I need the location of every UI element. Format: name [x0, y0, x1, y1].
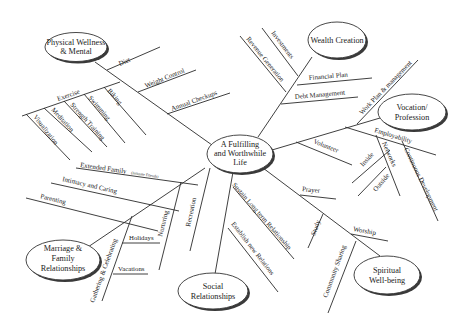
label-extended-family: Extended Family [80, 161, 128, 175]
mind-map-canvas: Diet Weight Control Annual Checkups Exer… [0, 0, 474, 331]
label-biking: Biking [106, 87, 124, 106]
label-community-sharing: Community Sharing [321, 243, 347, 298]
label-volunteer: Volunteer [313, 137, 341, 154]
marriage-branches [26, 168, 210, 301]
label-financial-plan: Financial Plan [308, 71, 348, 81]
label-prayer: Prayer [302, 185, 321, 194]
node-physical: Physical Wellness & Mental [45, 33, 109, 64]
center-line1: A Fulfilling [221, 140, 259, 149]
node-marriage-line2: Family [51, 254, 75, 263]
node-social: Social Relationships [178, 273, 250, 311]
node-spiritual: Spiritual Well-being [354, 256, 422, 296]
label-annual-checkups: Annual Checkups [170, 89, 218, 112]
node-social-line1: Social [203, 282, 224, 291]
label-nurturing: Nurturing [156, 209, 169, 237]
label-outside: Outside [371, 172, 390, 193]
node-marriage-line3: Relationships [41, 264, 86, 273]
node-marriage-line1: Marriage & [44, 244, 83, 253]
node-spiritual-line1: Spiritual [373, 266, 402, 275]
center-line3: Life [233, 158, 247, 167]
label-continuous-development: Continuous Development [403, 146, 440, 212]
label-recreation: Recreation [184, 196, 197, 227]
label-swimming: Swimming [87, 94, 112, 122]
label-parenting: Parenting [40, 192, 68, 205]
node-wealth: Wealth Creation [308, 22, 368, 60]
label-vacations: Vacations [118, 265, 145, 272]
center-line2: and Worthwhile [214, 149, 267, 158]
node-vocation: Vocation/ Profession [378, 94, 448, 132]
node-vocation-line2: Profession [395, 113, 430, 122]
label-weight-control: Weight Control [144, 67, 186, 89]
node-vocation-line1: Vocation/ [396, 103, 428, 112]
label-holidays: Holidays [129, 234, 154, 241]
label-sustain-relationship: Sustain Long term Relationship [231, 181, 293, 251]
label-worship: Worship [353, 225, 377, 236]
node-physical-line1: Physical Wellness [47, 38, 106, 47]
node-physical-line2: & Mental [60, 47, 92, 56]
node-wealth-line1: Wealth Creation [310, 36, 363, 45]
node-spiritual-line2: Well-being [369, 276, 405, 285]
label-debt-management: Debt Management [294, 89, 345, 100]
mind-map-diagram: Diet Weight Control Annual Checkups Exer… [0, 0, 474, 331]
label-visualization: Visualization [32, 113, 60, 146]
node-marriage: Marriage & Family Relationships [26, 240, 102, 282]
node-social-line2: Relationships [191, 292, 236, 301]
label-diet: Diet [118, 56, 132, 67]
label-study: Study [309, 218, 321, 236]
node-center: A Fulfilling and Worthwhile Life [207, 135, 275, 175]
